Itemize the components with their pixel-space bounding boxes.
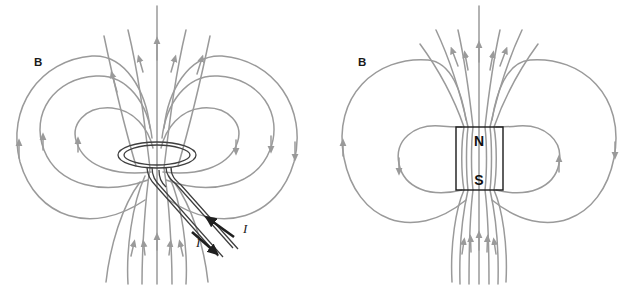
- panel-current-loop: B I I: [17, 6, 297, 284]
- current-label-i-in: I: [242, 221, 248, 236]
- field-label-b-left: B: [34, 56, 42, 68]
- panel-bar-magnet: B N S: [342, 6, 616, 284]
- magnetic-field-diagram: B I I: [0, 0, 627, 290]
- current-label-i-out: I: [195, 235, 201, 250]
- magnet-south-pole-label: S: [474, 172, 483, 188]
- magnet-north-pole-label: N: [474, 133, 484, 149]
- field-label-b-right: B: [358, 56, 366, 68]
